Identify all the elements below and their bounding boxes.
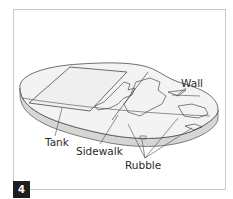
label-wall: Wall — [181, 78, 203, 89]
site-diagram — [0, 0, 233, 199]
label-sidewalk: Sidewalk — [76, 146, 123, 157]
label-rubble: Rubble — [125, 160, 161, 171]
figure-number-badge: 4 — [13, 181, 30, 198]
label-tank: Tank — [45, 137, 69, 148]
